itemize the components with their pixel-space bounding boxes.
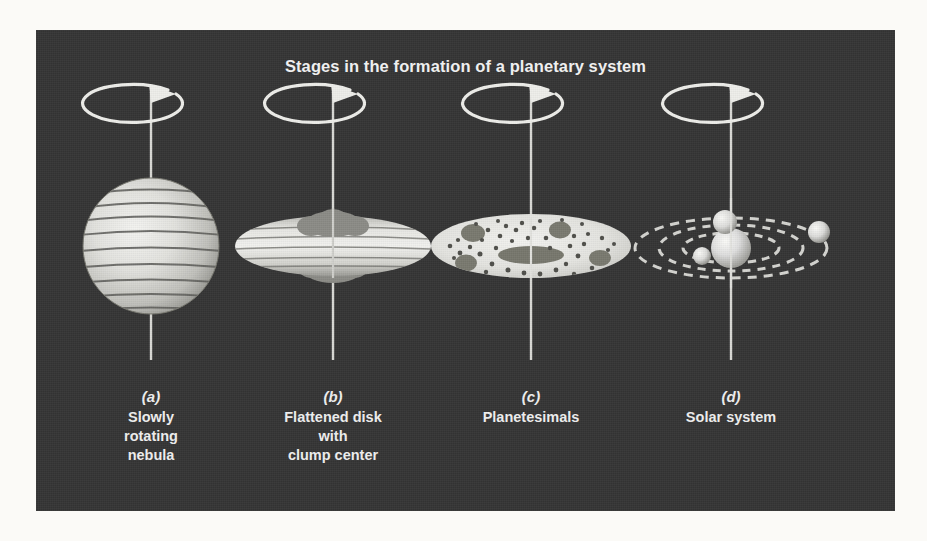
caption-letter-b: (b): [226, 387, 440, 406]
rotation-arrow-icon: [463, 84, 563, 122]
stage-a-illustration: [56, 78, 246, 398]
caption-line-a-2: rotating: [124, 428, 178, 444]
figure-title: Stages in the formation of a planetary s…: [36, 57, 895, 76]
rotation-arrow-icon: [663, 84, 763, 122]
caption-line-d-1: Solar system: [686, 409, 776, 425]
caption-line-a-3: nebula: [128, 447, 175, 463]
stage-panel-b: (b) Flattened disk with clump center: [238, 30, 428, 511]
planet-upper: [713, 210, 737, 234]
caption-letter-d: (d): [606, 387, 856, 406]
caption-line-b-1: Flattened disk: [284, 409, 382, 425]
figure-panel: Stages in the formation of a planetary s…: [36, 30, 895, 511]
caption-line-b-3: clump center: [288, 447, 378, 463]
planet-inner-small: [693, 247, 711, 265]
rotation-arrow-icon: [83, 84, 183, 122]
planet-outer-right: [808, 221, 830, 243]
caption-b: (b) Flattened disk with clump center: [226, 387, 440, 465]
stage-c-illustration: [436, 78, 626, 398]
caption-d: (d) Solar system: [606, 387, 856, 427]
stage-panel-a: (a) Slowly rotating nebula: [56, 30, 246, 511]
stage-panel-c: (c) Planetesimals: [436, 30, 626, 511]
rotation-arrow-icon: [265, 84, 365, 122]
caption-line-a-1: Slowly: [128, 409, 174, 425]
stage-panel-d: (d) Solar system: [636, 30, 826, 511]
stage-d-illustration: [636, 78, 826, 398]
caption-line-b-2: with: [319, 428, 348, 444]
caption-line-c-1: Planetesimals: [483, 409, 580, 425]
nebula-sphere-icon: [71, 178, 231, 314]
stage-b-illustration: [238, 78, 428, 398]
